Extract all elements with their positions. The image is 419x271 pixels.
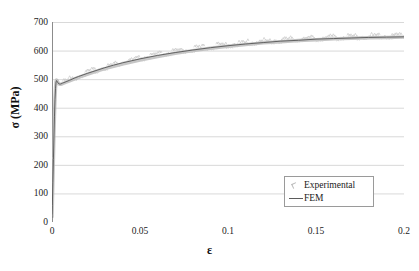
x-tick-label: 0.15 bbox=[296, 226, 336, 236]
y-tick-label: 700 bbox=[14, 17, 48, 27]
legend-item-experimental: Experimental bbox=[288, 179, 370, 192]
x-tick-label: 0.1 bbox=[208, 226, 248, 236]
x-tick-label: 0.05 bbox=[120, 226, 160, 236]
y-tick-label: 600 bbox=[14, 46, 48, 56]
legend-item-fem: FEM bbox=[288, 192, 370, 205]
chart-legend: Experimental FEM bbox=[284, 176, 374, 207]
y-tick-label: 400 bbox=[14, 103, 48, 113]
y-tick-label: 200 bbox=[14, 160, 48, 170]
y-tick-label: 300 bbox=[14, 131, 48, 141]
stress-strain-chart-figure: σ (MPa) 0100200300400500600700 00.050.10… bbox=[0, 0, 419, 271]
y-tick-label: 500 bbox=[14, 74, 48, 84]
scatter-marker-icon bbox=[288, 180, 304, 191]
y-tick-label: 100 bbox=[14, 188, 48, 198]
x-tick-label: 0.2 bbox=[384, 226, 419, 236]
legend-label-fem: FEM bbox=[304, 193, 324, 204]
x-axis-title: ε bbox=[0, 243, 419, 258]
legend-label-experimental: Experimental bbox=[304, 180, 355, 191]
x-tick-label: 0 bbox=[32, 226, 72, 236]
line-segment-icon bbox=[288, 193, 304, 204]
